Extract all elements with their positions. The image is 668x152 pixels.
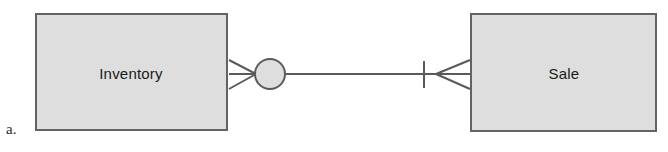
figure-label: a. [6, 121, 16, 137]
diagram-canvas: Inventory Sale a. [0, 0, 668, 152]
crowsfoot-sale-icon [436, 60, 470, 89]
entity-label-inventory: Inventory [99, 65, 163, 82]
crowsfoot-inventory-icon [229, 60, 256, 89]
entity-label-sale: Sale [549, 65, 580, 82]
optional-circle-icon [255, 59, 285, 89]
er-diagram: Inventory Sale a. [0, 0, 668, 152]
